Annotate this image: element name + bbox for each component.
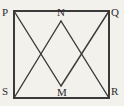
segment-n-r xyxy=(61,21,109,98)
segment-n-s xyxy=(14,21,61,98)
vertex-label-n: N xyxy=(57,7,65,18)
segment-m-p xyxy=(14,11,61,86)
vertex-label-p: P xyxy=(2,7,8,18)
vertex-label-s: S xyxy=(2,86,8,97)
vertex-label-r: R xyxy=(111,86,118,97)
vertex-label-q: Q xyxy=(111,7,119,18)
segment-m-q xyxy=(61,11,109,86)
geometry-figure: P Q S R N M xyxy=(0,0,124,106)
vertex-label-m: M xyxy=(57,87,67,98)
